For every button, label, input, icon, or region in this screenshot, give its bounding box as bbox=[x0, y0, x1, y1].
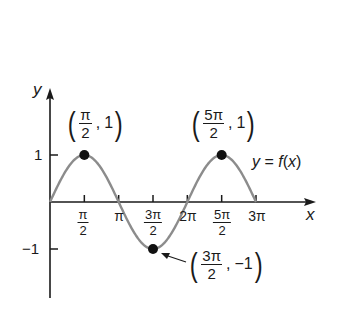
frac-num: 5π bbox=[203, 107, 224, 124]
key-point-marker bbox=[79, 150, 89, 160]
func-x: x bbox=[288, 153, 296, 170]
x-axis-label: x bbox=[306, 205, 315, 225]
open-paren: ( bbox=[68, 106, 76, 140]
func-y: y bbox=[252, 153, 260, 170]
func-close: ) bbox=[296, 153, 301, 170]
open-paren: ( bbox=[190, 247, 198, 281]
comma: , bbox=[96, 114, 100, 132]
x-tick-2pi: 2π bbox=[179, 208, 196, 224]
frac-num: 3π bbox=[201, 248, 222, 265]
frac-den: 2 bbox=[79, 223, 86, 237]
open-paren: ( bbox=[192, 106, 200, 140]
x-tick-pi: π bbox=[114, 208, 124, 224]
x-tick-3pi: 3π bbox=[248, 208, 265, 224]
x-tick-3pi-over-2: 3π2 bbox=[144, 208, 162, 237]
annotation-arrow bbox=[161, 253, 186, 262]
frac-num: π bbox=[78, 208, 89, 223]
frac-den: 2 bbox=[208, 265, 216, 281]
y-tick-neg1: −1 bbox=[22, 240, 39, 257]
function-label: y = f(x) bbox=[252, 153, 301, 171]
y-value: −1 bbox=[234, 255, 252, 273]
comma: , bbox=[226, 255, 230, 273]
frac-num: π bbox=[79, 107, 91, 124]
frac-den: 2 bbox=[81, 124, 89, 140]
x-tick-pi-over-2: π2 bbox=[78, 208, 89, 237]
key-point-marker bbox=[148, 244, 158, 254]
close-paren: ) bbox=[254, 247, 262, 281]
y-value: 1 bbox=[104, 114, 113, 132]
frac-den: 2 bbox=[210, 124, 218, 140]
point-label-max-1: ( π2 , 1 ) bbox=[66, 106, 124, 140]
close-paren: ) bbox=[247, 106, 255, 140]
point-label-max-2: ( 5π2 , 1 ) bbox=[190, 106, 257, 140]
key-point-marker bbox=[217, 150, 227, 160]
y-tick-1: 1 bbox=[34, 146, 42, 163]
point-label-min: ( 3π2 , −1 ) bbox=[188, 247, 264, 281]
close-paren: ) bbox=[115, 106, 123, 140]
x-tick-5pi-over-2: 5π2 bbox=[213, 208, 231, 237]
frac-num: 3π bbox=[144, 208, 162, 223]
frac-num: 5π bbox=[213, 208, 231, 223]
func-eq: = bbox=[260, 153, 278, 170]
frac-den: 2 bbox=[218, 223, 225, 237]
y-value: 1 bbox=[236, 114, 245, 132]
frac-den: 2 bbox=[149, 223, 156, 237]
y-axis-label: y bbox=[33, 80, 42, 100]
comma: , bbox=[228, 114, 232, 132]
